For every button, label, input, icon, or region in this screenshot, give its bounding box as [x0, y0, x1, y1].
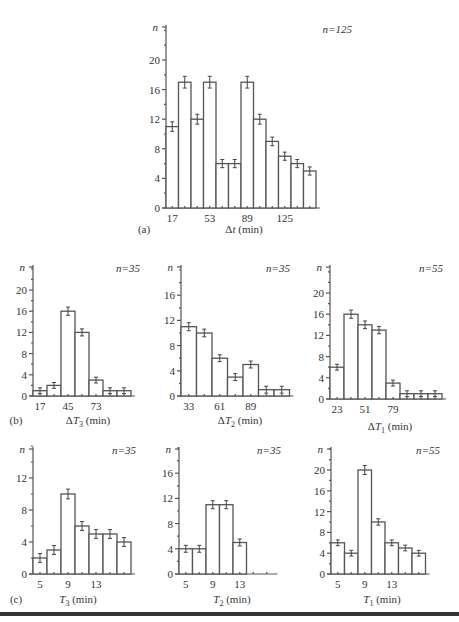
histogram-panel-c1: 04812n5913n=35T3 (min)(c)	[10, 443, 137, 608]
sample-size-annotation: n=35	[116, 262, 140, 274]
sample-size-annotation: n=55	[416, 444, 440, 456]
x-tick-label: 5	[37, 578, 43, 590]
y-tick-label: 0	[319, 393, 325, 405]
x-tick-label: 9	[210, 578, 216, 590]
histogram-bar	[233, 543, 247, 575]
histogram-bar	[181, 327, 197, 396]
x-axis-label: T1 (min)	[363, 593, 401, 608]
y-tick-label: 8	[170, 340, 176, 352]
histogram-bar	[216, 164, 229, 208]
histogram-bar	[266, 141, 279, 208]
y-tick-label: 12	[16, 326, 27, 338]
histogram-panel-b2: 0481216n336189n=35ΔT2 (min)	[164, 261, 294, 429]
histogram-bar	[220, 505, 234, 574]
bottom-rule-divider	[0, 612, 459, 616]
y-tick-label: 16	[164, 289, 176, 301]
histogram-bar	[206, 505, 220, 574]
x-tick-label: 5	[183, 578, 189, 590]
y-tick-label: 12	[164, 314, 175, 326]
y-tick-label: 8	[319, 351, 325, 363]
x-tick-label: 17	[35, 400, 47, 412]
panel-label: (b)	[10, 414, 23, 427]
panel-label: (c)	[10, 593, 23, 606]
histogram-bar	[254, 119, 267, 208]
y-tick-label: 8	[22, 504, 28, 516]
x-axis-label: ΔT1 (min)	[368, 420, 413, 435]
histogram-bar	[61, 494, 75, 574]
sample-size-annotation: n=35	[257, 444, 281, 456]
histogram-bar	[229, 164, 242, 208]
y-tick-label: 0	[22, 390, 28, 402]
histogram-panel-b3: 048121620n235179n=55ΔT1 (min)	[313, 261, 446, 435]
x-tick-label: 13	[91, 578, 103, 590]
y-axis-label: n	[153, 21, 159, 33]
x-tick-label: 53	[204, 212, 216, 224]
histogram-bar	[179, 82, 192, 208]
histogram-bar	[279, 156, 292, 208]
y-tick-label: 16	[313, 308, 325, 320]
x-axis-label: T3 (min)	[59, 593, 97, 608]
x-tick-label: 89	[245, 400, 257, 412]
histogram-bar	[61, 311, 75, 396]
panel-label: (a)	[138, 223, 151, 236]
sample-size-annotation: n=125	[323, 23, 353, 35]
histogram-bar	[241, 82, 254, 208]
x-tick-label: 79	[388, 403, 400, 415]
histogram-figure: 048121620n175389125n=125Δt (min)(a)04812…	[0, 0, 459, 622]
x-axis-label: ΔT2 (min)	[218, 414, 263, 429]
histogram-bar	[75, 526, 89, 574]
histogram-panel-b1: 048121620n174573n=35ΔT3 (min)(b)	[10, 261, 141, 429]
x-tick-label: 9	[362, 578, 368, 590]
y-tick-label: 12	[162, 492, 173, 504]
x-tick-label: 125	[277, 212, 294, 224]
x-tick-label: 73	[91, 400, 103, 412]
histogram-bar	[75, 332, 89, 396]
histogram-bar	[243, 365, 259, 397]
histogram-bar	[331, 543, 345, 574]
y-tick-label: 12	[16, 472, 27, 484]
x-axis-label: Δt (min)	[225, 223, 263, 236]
y-axis-label: n	[166, 443, 172, 455]
y-tick-label: 4	[22, 536, 28, 548]
y-tick-label: 16	[162, 467, 174, 479]
y-tick-label: 4	[170, 365, 176, 377]
y-tick-label: 16	[314, 485, 326, 497]
sample-size-annotation: n=35	[266, 262, 290, 274]
y-axis-label: n	[317, 261, 323, 273]
y-tick-label: 0	[320, 568, 326, 580]
y-tick-label: 8	[168, 518, 174, 530]
x-tick-label: 17	[167, 212, 179, 224]
y-tick-label: 16	[149, 84, 161, 96]
histogram-bar	[330, 367, 344, 399]
histogram-panel-c2: 0481216n5913n=35T2 (min)	[162, 443, 281, 608]
histogram-bar	[385, 543, 399, 574]
y-tick-label: 20	[16, 284, 28, 296]
histogram-bar	[399, 548, 413, 574]
histogram-bar	[372, 330, 386, 399]
y-tick-label: 8	[320, 526, 326, 538]
x-tick-label: 13	[234, 578, 246, 590]
histogram-panel-a: 048121620n175389125n=125Δt (min)(a)	[138, 21, 353, 236]
x-tick-label: 51	[360, 403, 371, 415]
x-axis-label: ΔT3 (min)	[66, 414, 111, 429]
histogram-bar	[212, 358, 228, 396]
y-tick-label: 20	[314, 464, 326, 476]
y-axis-label: n	[20, 261, 26, 273]
y-tick-label: 4	[320, 547, 326, 559]
y-tick-label: 20	[313, 287, 325, 299]
y-tick-label: 4	[22, 369, 28, 381]
histogram-bar	[291, 164, 304, 208]
histogram-bar	[197, 333, 213, 396]
x-axis-label: T2 (min)	[213, 593, 251, 608]
y-axis-label: n	[318, 443, 324, 455]
sample-size-annotation: n=55	[419, 262, 443, 274]
y-tick-label: 4	[319, 372, 325, 384]
y-tick-label: 12	[313, 329, 324, 341]
histogram-bar	[166, 127, 179, 208]
histogram-bar	[358, 325, 372, 399]
x-tick-label: 45	[63, 400, 75, 412]
histogram-bar	[103, 534, 117, 574]
y-tick-label: 0	[168, 568, 174, 580]
histogram-bar	[304, 171, 317, 208]
histogram-bar	[204, 82, 217, 208]
